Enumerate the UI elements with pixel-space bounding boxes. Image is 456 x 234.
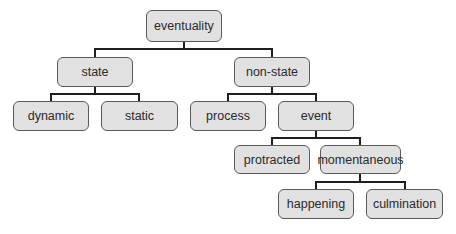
node-label: happening [287, 197, 345, 211]
node-label: static [125, 109, 154, 123]
node-label: process [206, 109, 250, 123]
node-label: dynamic [28, 109, 75, 123]
node-label: culmination [373, 197, 436, 211]
taxonomy-tree: eventuality state non-state dynamic stat… [0, 0, 456, 234]
node-dynamic: dynamic [13, 101, 89, 131]
node-label: protracted [244, 153, 300, 167]
node-label: event [301, 109, 332, 123]
node-label: non-state [246, 65, 298, 79]
node-static: static [101, 101, 178, 131]
node-protracted: protracted [234, 145, 310, 174]
node-momentaneous: momentaneous [320, 145, 401, 174]
node-culmination: culmination [366, 189, 443, 219]
node-label: eventuality [154, 19, 214, 33]
node-state: state [57, 57, 133, 87]
node-label: momentaneous [317, 153, 403, 167]
node-label: state [81, 65, 108, 79]
node-eventuality: eventuality [146, 10, 222, 42]
node-happening: happening [278, 189, 354, 219]
node-process: process [190, 101, 266, 131]
node-non-state: non-state [234, 57, 310, 87]
node-event: event [278, 101, 354, 131]
